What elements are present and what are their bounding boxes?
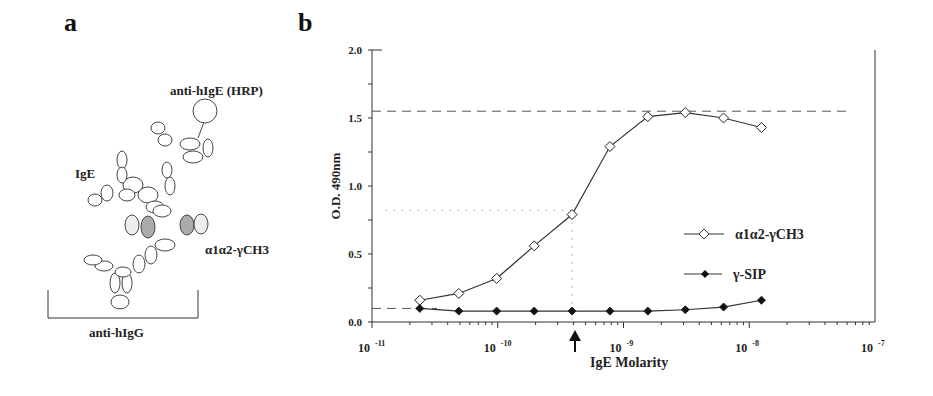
legend-series-2: γ-SIP (732, 267, 766, 282)
data-point (681, 306, 689, 314)
svg-text:2.0: 2.0 (348, 44, 362, 56)
data-point (416, 304, 424, 312)
data-point (644, 307, 652, 315)
data-point (680, 108, 690, 118)
svg-text:0.0: 0.0 (348, 316, 362, 328)
data-point (757, 296, 765, 304)
data-point (454, 288, 464, 298)
data-point (606, 307, 614, 315)
od-vs-ige-chart: 0.00.51.01.52.010-1110-1010-910-810-7 Ig… (0, 0, 933, 396)
chart-series (415, 108, 767, 316)
svg-text:10: 10 (610, 341, 622, 355)
svg-text:-10: -10 (501, 339, 512, 348)
data-point (756, 123, 766, 133)
data-point (720, 303, 728, 311)
y-axis-label: O.D. 490nm (328, 152, 343, 219)
svg-text:1.0: 1.0 (348, 180, 362, 192)
svg-text:-9: -9 (627, 339, 634, 348)
data-point (530, 307, 538, 315)
svg-text:10: 10 (358, 341, 370, 355)
data-point (455, 307, 463, 315)
chart-axes: 0.00.51.01.52.010-1110-1010-910-810-7 (348, 44, 884, 355)
svg-text:0.5: 0.5 (348, 248, 362, 260)
data-point (568, 307, 576, 315)
svg-text:-7: -7 (878, 339, 885, 348)
open-diamond-icon (699, 229, 709, 239)
svg-text:10: 10 (735, 341, 747, 355)
svg-text:1.5: 1.5 (348, 112, 362, 124)
svg-text:-11: -11 (375, 339, 385, 348)
legend-series-1: α1α2-γCH3 (735, 227, 804, 242)
svg-text:10: 10 (861, 341, 873, 355)
legend: α1α2-γCH3 γ-SIP (684, 227, 804, 282)
ec50-arrow (569, 330, 581, 352)
svg-text:-8: -8 (752, 339, 759, 348)
filled-diamond-icon (701, 270, 709, 278)
data-point (719, 113, 729, 123)
data-point (493, 307, 501, 315)
x-axis-label: IgE Molarity (590, 355, 668, 370)
arrow-up-icon (569, 330, 581, 341)
svg-text:10: 10 (484, 341, 496, 355)
